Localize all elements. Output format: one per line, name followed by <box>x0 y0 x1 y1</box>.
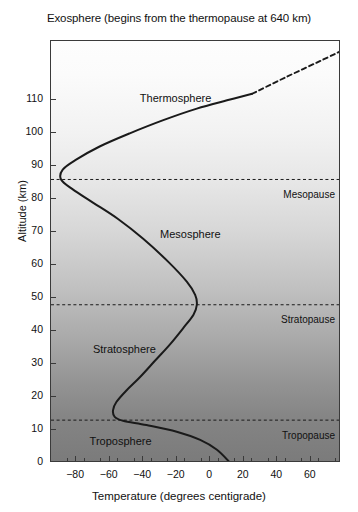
x-minor-tick-mark <box>234 458 235 462</box>
x-minor-tick-mark <box>84 458 85 462</box>
layer-label-thermosphere: Thermosphere <box>140 92 212 104</box>
y-tick-mark <box>50 330 56 331</box>
y-tick-label: 10 <box>17 422 43 434</box>
chart-title: Exosphere (begins from the thermopause a… <box>0 12 358 24</box>
plot-area: ThermosphereMesosphereStratosphereTropos… <box>50 40 340 462</box>
x-tick-label: 60 <box>290 468 330 480</box>
y-tick-label: 20 <box>17 389 43 401</box>
layer-label-stratosphere: Stratosphere <box>93 343 156 355</box>
x-minor-tick-mark <box>335 458 336 462</box>
x-minor-tick-mark <box>301 458 302 462</box>
x-minor-tick-mark <box>268 458 269 462</box>
atmosphere-temperature-profile-figure: Exosphere (begins from the thermopause a… <box>0 0 358 512</box>
y-tick-mark <box>50 165 56 166</box>
y-tick-mark <box>50 264 56 265</box>
x-minor-tick-mark <box>201 458 202 462</box>
temperature-curve-dashed <box>252 51 340 94</box>
y-tick-mark <box>50 396 56 397</box>
x-axis-title: Temperature (degrees centigrade) <box>0 490 358 502</box>
y-tick-mark <box>50 363 56 364</box>
y-tick-mark <box>50 132 56 133</box>
y-tick-mark <box>50 198 56 199</box>
x-minor-tick-mark <box>151 458 152 462</box>
x-minor-tick-mark <box>167 458 168 462</box>
y-tick-mark <box>50 297 56 298</box>
y-tick-mark <box>50 231 56 232</box>
x-minor-tick-mark <box>285 458 286 462</box>
temperature-curve-solid <box>60 94 252 462</box>
x-minor-tick-mark <box>134 458 135 462</box>
y-tick-mark <box>50 429 56 430</box>
x-tick-mark <box>310 456 311 462</box>
annotation-tropopause: Tropopause <box>282 430 335 441</box>
boundary-lines <box>51 179 340 420</box>
y-tick-label: 0 <box>17 455 43 467</box>
x-minor-tick-mark <box>117 458 118 462</box>
annotation-mesopause: Mesopause <box>283 189 335 200</box>
y-tick-label: 50 <box>17 290 43 302</box>
x-minor-tick-mark <box>67 458 68 462</box>
x-minor-tick-mark <box>100 458 101 462</box>
x-tick-mark <box>243 456 244 462</box>
x-minor-tick-mark <box>218 458 219 462</box>
x-tick-mark <box>176 456 177 462</box>
annotation-stratopause: Stratopause <box>281 314 335 325</box>
y-tick-label: 110 <box>17 92 43 104</box>
x-minor-tick-mark <box>251 458 252 462</box>
x-minor-tick-mark <box>318 458 319 462</box>
x-tick-mark <box>142 456 143 462</box>
y-tick-mark <box>50 99 56 100</box>
x-tick-mark <box>209 456 210 462</box>
x-tick-mark <box>109 456 110 462</box>
y-tick-label: 40 <box>17 323 43 335</box>
layer-label-mesosphere: Mesosphere <box>160 228 221 240</box>
layer-label-troposphere: Troposphere <box>90 435 152 447</box>
y-tick-label: 30 <box>17 356 43 368</box>
y-axis-title: Altitude (km) <box>16 151 28 271</box>
x-tick-mark <box>276 456 277 462</box>
y-tick-label: 100 <box>17 125 43 137</box>
x-tick-mark <box>75 456 76 462</box>
temperature-curves <box>60 51 340 462</box>
x-minor-tick-mark <box>184 458 185 462</box>
